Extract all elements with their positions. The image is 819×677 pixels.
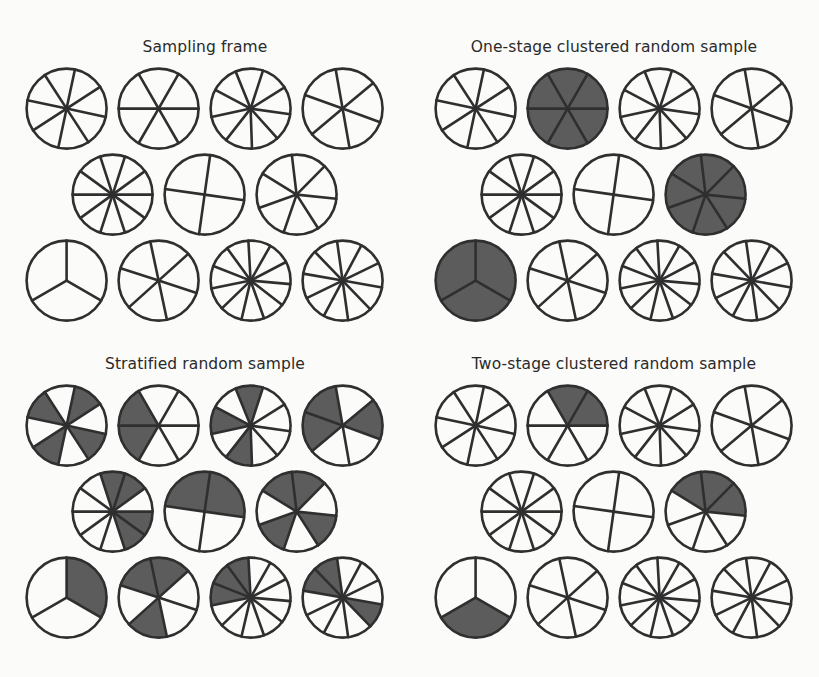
pie-spoke <box>752 109 790 123</box>
cluster-circle-2-0-0 <box>21 383 113 468</box>
pie-spoke <box>343 83 374 109</box>
pie-circle <box>116 66 201 151</box>
pie-circle <box>24 238 109 323</box>
cluster-circle-1-2-0 <box>430 238 522 323</box>
cluster-circle-2-0-3 <box>297 383 389 468</box>
pie-spoke <box>263 174 297 195</box>
cluster-circle-0-2-3 <box>297 238 389 323</box>
pie-circle <box>433 555 518 640</box>
pie-wedge-filled <box>119 426 159 461</box>
pie-spoke <box>343 109 350 148</box>
cluster-circle-0-0-0 <box>21 66 113 151</box>
pie-circle <box>709 555 794 640</box>
pie-spoke <box>548 426 568 461</box>
circle-row <box>409 555 819 641</box>
pie-circle <box>525 555 610 640</box>
pie-spoke <box>249 241 251 281</box>
pie-circle <box>663 469 748 554</box>
pie-circle <box>571 152 656 237</box>
pie-circle <box>300 238 385 323</box>
pie-spoke <box>721 426 752 452</box>
pie-spoke <box>530 586 568 598</box>
pie-spoke <box>752 83 783 109</box>
pie-spoke <box>32 598 67 618</box>
pie-spoke <box>721 109 752 135</box>
pie-spoke <box>530 269 568 281</box>
pie-circle <box>300 383 385 468</box>
pie-spoke <box>129 281 159 308</box>
panel-one-stage-clustered-random-sample: One-stage clustered random sample <box>409 38 819 338</box>
pie-spoke <box>568 571 598 598</box>
cluster-circle-3-1-0 <box>476 469 568 554</box>
pie-circle <box>300 555 385 640</box>
cluster-circle-1-0-2 <box>614 66 706 151</box>
circle-row <box>0 238 410 324</box>
pie-circle <box>433 66 518 151</box>
pie-circle <box>24 555 109 640</box>
pie-circle <box>617 66 702 151</box>
cluster-circle-0-0-2 <box>205 66 297 151</box>
circle-row <box>409 66 819 152</box>
pie-wedge-filled <box>119 391 159 426</box>
pie-spoke <box>151 242 159 281</box>
pie-spoke <box>205 195 245 201</box>
pie-circle <box>709 383 794 468</box>
panel-rows-stratified-random-sample <box>0 383 410 641</box>
pie-spoke <box>614 512 654 518</box>
pie-spoke <box>752 400 783 426</box>
pie-spoke <box>32 281 67 301</box>
panel-rows-one-stage-clustered-random-sample <box>409 66 819 324</box>
pie-spoke <box>668 512 706 525</box>
cluster-circle-1-1-2 <box>660 152 752 237</box>
cluster-circle-2-1-0 <box>67 469 159 554</box>
pie-spoke <box>251 426 252 466</box>
pie-spoke <box>745 70 752 109</box>
pie-circle <box>70 469 155 554</box>
pie-spoke <box>658 558 660 598</box>
pie-circle <box>254 152 339 237</box>
pie-circle <box>479 469 564 554</box>
cluster-circle-1-2-1 <box>522 238 614 323</box>
cluster-circle-0-2-1 <box>113 238 205 323</box>
pie-wedge-filled <box>441 598 510 638</box>
pie-circle <box>300 66 385 151</box>
pie-circle <box>208 555 293 640</box>
pie-spoke <box>714 412 752 426</box>
pie-spoke <box>284 195 297 233</box>
cluster-circle-3-0-2 <box>614 383 706 468</box>
panel-rows-sampling-frame <box>0 66 410 324</box>
panel-sampling-frame: Sampling frame <box>0 38 410 338</box>
pie-circle <box>116 555 201 640</box>
circle-row <box>409 238 819 324</box>
pie-circle <box>208 383 293 468</box>
panel-title-stratified-random-sample: Stratified random sample <box>0 355 410 373</box>
pie-spoke <box>343 109 381 123</box>
cluster-circle-1-2-2 <box>614 238 706 323</box>
pie-spoke <box>538 281 568 308</box>
pie-spoke <box>568 598 606 610</box>
pie-spoke <box>752 109 759 148</box>
pie-spoke <box>297 195 337 199</box>
pie-spoke <box>658 241 660 281</box>
cluster-circle-2-2-1 <box>113 555 205 640</box>
panel-rows-two-stage-clustered-random-sample <box>409 383 819 641</box>
pie-spoke <box>614 155 620 195</box>
pie-circle <box>525 66 610 151</box>
panel-stratified-random-sample: Stratified random sample <box>0 355 410 660</box>
pie-spoke <box>121 269 159 281</box>
pie-spoke <box>165 189 205 195</box>
pie-spoke <box>568 281 576 320</box>
cluster-circle-0-0-3 <box>297 66 389 151</box>
pie-spoke <box>706 512 728 546</box>
cluster-circle-3-0-3 <box>706 383 798 468</box>
pie-spoke <box>159 426 179 461</box>
cluster-circle-3-2-2 <box>614 555 706 640</box>
pie-spoke <box>297 195 319 229</box>
cluster-circle-2-2-0 <box>21 555 113 640</box>
cluster-circle-3-2-0 <box>430 555 522 640</box>
pie-spoke <box>259 195 297 208</box>
cluster-circle-2-0-1 <box>113 383 205 468</box>
cluster-circle-2-0-2 <box>205 383 297 468</box>
pie-circle <box>208 66 293 151</box>
pie-spoke <box>745 387 752 426</box>
